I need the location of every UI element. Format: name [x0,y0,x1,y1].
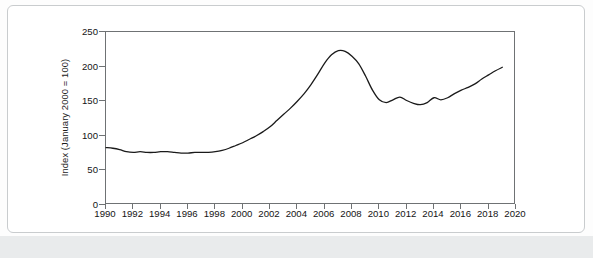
series-path [106,50,502,153]
y-tick-label-250: 250 [68,26,98,37]
x-axis-tick-labels: 1990199219941996199820002002200420062008… [105,208,515,222]
y-tick-label-200: 200 [68,60,98,71]
y-tick-label-150: 150 [68,95,98,106]
scanned-page: Index (January 2000 = 100) 0501001502002… [0,0,593,258]
series-line-house-price-index [106,32,516,205]
y-tick-label-100: 100 [68,129,98,140]
y-tick-label-50: 50 [68,164,98,175]
x-tick-label-2020: 2020 [495,208,535,219]
y-axis-tick-labels: 050100150200250 [66,31,98,204]
line-chart: Index (January 2000 = 100) 0501001502002… [0,0,593,258]
plot-frame [105,31,515,204]
